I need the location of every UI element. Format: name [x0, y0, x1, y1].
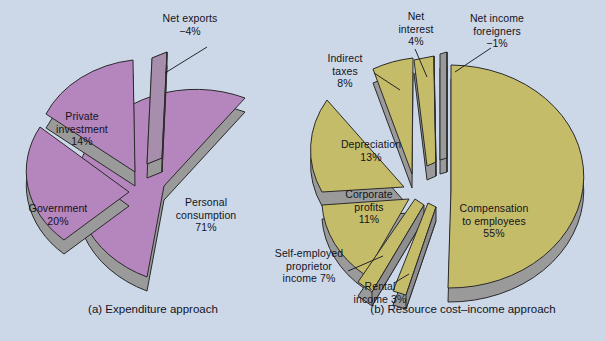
- slice-net-interest[interactable]: [414, 56, 436, 180]
- chart-expenditure: [26, 52, 245, 291]
- label-compensation-to-employees: Compensation to employees 55%: [440, 202, 548, 240]
- label-self-employed-proprietor-income: Self-employed proprietor income 7%: [263, 247, 355, 285]
- label-private-investment: Private investment 14%: [38, 110, 126, 148]
- label-net-income-foreigners: Net income foreigners −1%: [452, 12, 542, 50]
- caption-expenditure-approach: (a) Expenditure approach: [48, 303, 258, 315]
- label-rental-income: Rental income 3%: [340, 280, 420, 305]
- label-indirect-taxes: Indirect taxes 8%: [313, 52, 377, 90]
- pie-charts-svg: [0, 0, 605, 341]
- label-net-exports: Net exports −4%: [135, 12, 245, 37]
- slice-compensation-to-employees[interactable]: [448, 65, 584, 302]
- label-depreciation: Depreciation 13%: [328, 138, 414, 163]
- figure-container: Net exports −4% Private investment 14% G…: [0, 0, 605, 341]
- label-corporate-profits: Corporate profits 11%: [330, 188, 408, 226]
- label-net-interest: Net interest 4%: [385, 10, 447, 48]
- slice-net-income-foreigners[interactable]: [440, 52, 447, 174]
- leader-net-exports: [165, 47, 207, 73]
- label-personal-consumption: Personal consumption 71%: [158, 196, 254, 234]
- caption-resource-cost-income-approach: (b) Resource cost–income approach: [338, 303, 588, 315]
- label-government: Government 20%: [8, 202, 108, 227]
